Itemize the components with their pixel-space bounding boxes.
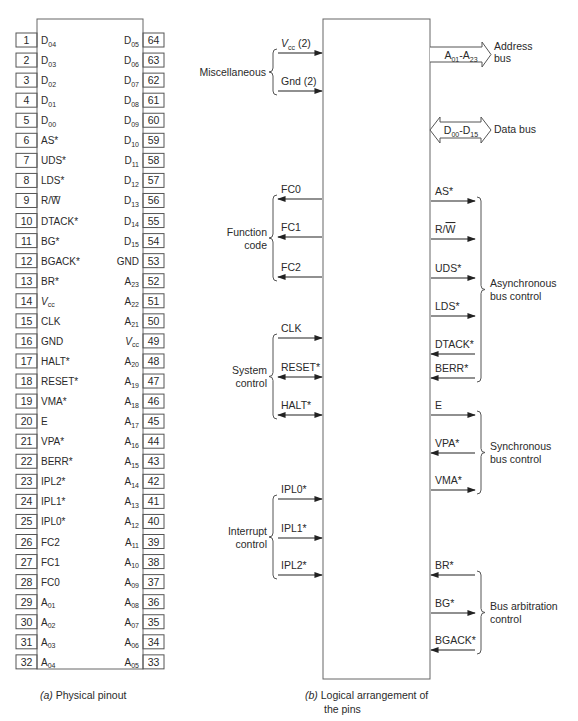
- signal-label: DTACK*: [41, 216, 78, 227]
- signal-label: IPL1*: [41, 496, 66, 507]
- pin-55: 55D14: [124, 214, 164, 229]
- pin-54: 54D15: [124, 234, 164, 249]
- group-label: control: [235, 538, 267, 550]
- signal-label: GND: [41, 336, 63, 347]
- group-label: Asynchronous: [490, 277, 557, 289]
- pin-53: 53GND: [117, 254, 164, 268]
- group-brace-icon: [269, 195, 277, 281]
- signal-label: BR*: [41, 276, 59, 287]
- signal-label: A12: [125, 516, 140, 529]
- pin-number: 6: [24, 134, 30, 146]
- caption-b-line2: the pins: [324, 703, 361, 715]
- pin-number: 29: [21, 596, 33, 608]
- signal-label: D05: [124, 35, 139, 48]
- pin-21: 21VPA*: [16, 434, 64, 448]
- signal-label: A01: [41, 597, 56, 610]
- pin-60: 60D09: [124, 113, 164, 128]
- signal-label: RESET*: [281, 361, 320, 373]
- signal-label: Vcc: [125, 336, 139, 349]
- caption-a: (a) Physical pinout: [40, 689, 126, 701]
- signal-label: D08: [124, 95, 139, 108]
- group-bus-arbitration-control: BR*BG*BGACK*Bus arbitrationcontrol: [431, 559, 558, 654]
- pin-13: 13BR*: [16, 274, 59, 288]
- pin-number: 58: [148, 154, 160, 166]
- pin-59: 59D10: [124, 133, 164, 148]
- bus-name-label: Data bus: [494, 123, 536, 135]
- pin-number: 7: [24, 154, 30, 166]
- signal-label: A09: [125, 577, 140, 590]
- pin-36: 36A08: [125, 595, 164, 610]
- signal-label: A21: [125, 316, 140, 329]
- left-signal-groups: Vcc (2)Gnd (2)MiscellaneousFC0FC1FC2Func…: [199, 37, 322, 579]
- signal-label: A13: [125, 496, 140, 509]
- pin-28: 28FC0: [16, 575, 60, 589]
- signal-label: A10: [125, 557, 140, 570]
- pin-33: 33A05: [125, 655, 164, 670]
- pin-number: 32: [21, 656, 33, 668]
- pin-17: 17HALT*: [16, 354, 70, 368]
- pin-15: 15CLK: [16, 314, 61, 328]
- address-bus-arrow: A01-A23Addressbus: [430, 40, 533, 67]
- right-signal-groups: AS*R/WUDS*LDS*DTACK*BERR*Asynchronousbus…: [431, 185, 558, 654]
- pin-63: 63D06: [124, 53, 164, 67]
- pin-40: 40A12: [125, 514, 164, 529]
- pin-64: 64D05: [124, 33, 164, 48]
- signal-label: D06: [124, 55, 139, 68]
- pin-number: 10: [21, 215, 33, 227]
- pin-25: 25IPL0*: [16, 514, 66, 528]
- data-bus-arrow: D00-D15Data bus: [430, 117, 536, 143]
- group-label: Bus arbitration: [490, 600, 558, 612]
- group-brace-icon: [269, 334, 277, 419]
- pin-number: 21: [21, 435, 33, 447]
- group-brace-icon: [477, 571, 485, 654]
- pin-number: 8: [24, 174, 30, 186]
- pin-number: 49: [148, 335, 160, 347]
- pin-50: 50A21: [125, 314, 164, 329]
- signal-label: D13: [124, 195, 139, 208]
- pin-56: 56D13: [124, 193, 164, 208]
- group-asynchronous-bus-control: AS*R/WUDS*LDS*DTACK*BERR*Asynchronousbus…: [431, 185, 557, 382]
- pin-38: 38A10: [125, 555, 164, 570]
- group-label: bus control: [490, 290, 541, 302]
- cpu-logic-block: [323, 19, 430, 679]
- group-function-code: FC0FC1FC2Functioncode: [227, 183, 322, 281]
- pin-number: 11: [21, 235, 32, 247]
- signal-label: DTACK*: [435, 338, 474, 350]
- pin-12: 12BGACK*: [16, 254, 80, 268]
- signal-label: E: [41, 416, 48, 427]
- pin-number: 14: [21, 295, 33, 307]
- pin-9: 9R/W̅: [16, 193, 61, 207]
- pin-number: 20: [21, 415, 33, 427]
- signal-label: A08: [125, 597, 140, 610]
- pin-14: 14Vcc: [16, 294, 55, 309]
- pin-22: 22BERR*: [16, 454, 73, 468]
- signal-label: D01: [41, 95, 56, 108]
- signal-label: FC0: [41, 577, 60, 588]
- pin-number: 47: [148, 375, 160, 387]
- signal-label: FC2: [41, 537, 60, 548]
- pin-47: 47A19: [125, 374, 164, 389]
- pin-number: 36: [148, 596, 160, 608]
- signal-label: FC2: [281, 261, 301, 273]
- pin-61: 61D08: [124, 93, 164, 108]
- pin-number: 56: [148, 194, 160, 206]
- pin-number: 57: [148, 174, 160, 186]
- pin-44: 44A16: [125, 434, 164, 449]
- signal-label: Vcc (2): [281, 37, 311, 51]
- group-system-control: CLKRESET*HALT*Systemcontrol: [232, 322, 322, 419]
- signal-label: D04: [41, 35, 56, 48]
- signal-label: D09: [124, 115, 139, 128]
- signal-label: A06: [125, 637, 140, 650]
- pin-number: 9: [24, 194, 30, 206]
- pin-number: 18: [21, 375, 33, 387]
- signal-label: A14: [125, 476, 140, 489]
- pin-32: 32A04: [16, 655, 56, 670]
- signal-label: FC1: [281, 221, 301, 233]
- pin-number: 43: [148, 455, 160, 467]
- group-label: System: [232, 364, 267, 376]
- signal-label: D15: [124, 236, 139, 249]
- pin-number: 4: [24, 94, 30, 106]
- pin-4: 4D01: [16, 93, 56, 108]
- pin-number: 13: [21, 275, 33, 287]
- bus-arrows: A01-A23AddressbusD00-D15Data bus: [430, 40, 536, 143]
